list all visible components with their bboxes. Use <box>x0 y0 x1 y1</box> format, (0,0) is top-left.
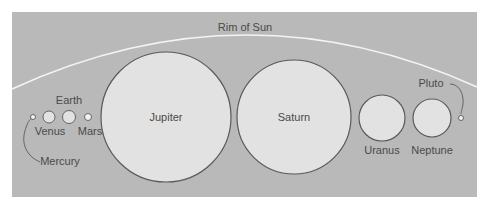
planet-label-venus: Venus <box>35 125 66 137</box>
planet-earth <box>63 111 76 124</box>
planet-label-jupiter: Jupiter <box>149 111 182 123</box>
planet-size-diagram: Rim of Sun MercuryVenusEarthMarsJupiterS… <box>0 0 485 207</box>
planet-pluto <box>459 116 464 121</box>
planet-label-uranus: Uranus <box>364 144 400 156</box>
sun-rim-label: Rim of Sun <box>218 21 272 33</box>
planet-mars <box>85 114 92 121</box>
planet-venus <box>43 111 55 123</box>
planet-label-mercury: Mercury <box>40 155 80 167</box>
planet-label-neptune: Neptune <box>411 144 453 156</box>
planet-label-mars: Mars <box>78 125 103 137</box>
planet-uranus <box>359 95 405 141</box>
planet-label-saturn: Saturn <box>278 111 310 123</box>
planet-label-pluto: Pluto <box>418 77 443 89</box>
planet-mercury <box>31 115 36 120</box>
planet-label-earth: Earth <box>56 94 82 106</box>
planet-neptune <box>413 99 451 137</box>
diagram-canvas: Rim of Sun MercuryVenusEarthMarsJupiterS… <box>0 0 485 207</box>
